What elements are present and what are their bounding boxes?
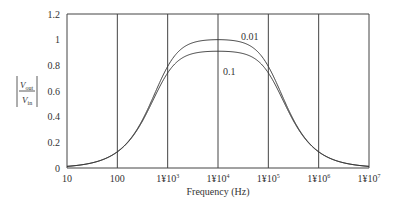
y-tick-label: 0.2	[48, 137, 61, 148]
annotation-0.01: 0.01	[241, 31, 259, 42]
annotation-0.1: 0.1	[223, 66, 236, 77]
y-tick-labels: 00.20.40.60.811.2	[48, 9, 61, 174]
x-tick-label: 1¥105	[257, 173, 280, 184]
x-tick-label: 100	[110, 173, 125, 184]
x-tick-label: 1¥104	[207, 173, 230, 184]
vertical-gridlines	[117, 14, 318, 168]
y-tick-label: 0	[55, 163, 60, 174]
x-tick-label: 1¥107	[358, 173, 381, 184]
x-tick-labels: 101001¥1031¥1041¥1051¥1061¥107	[62, 173, 381, 184]
x-tick-label: 1¥106	[307, 173, 330, 184]
y-tick-label: 0.4	[48, 111, 61, 122]
svg-text:Vout: Vout	[20, 80, 34, 91]
y-tick-label: 0.6	[48, 86, 61, 97]
svg-text:Vin: Vin	[22, 95, 32, 106]
y-axis-label: Vout Vin	[17, 76, 37, 107]
bandpass-chart: 00.20.40.60.811.2 101001¥1031¥1041¥1051¥…	[0, 0, 397, 209]
y-tick-label: 1.2	[48, 9, 61, 20]
x-tick-label: 1¥103	[156, 173, 179, 184]
x-axis-label: Frequency (Hz)	[186, 186, 249, 198]
y-tick-label: 1	[55, 34, 60, 45]
x-tick-label: 10	[62, 173, 72, 184]
y-tick-label: 0.8	[48, 60, 61, 71]
